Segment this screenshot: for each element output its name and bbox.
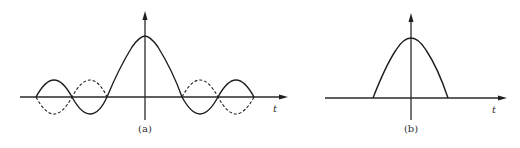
panel-a-t-label: t bbox=[273, 103, 278, 114]
panel-b-t-label: t bbox=[492, 104, 497, 115]
panel-a: t (a) bbox=[20, 11, 288, 134]
panel-b-vertical-axis-arrowhead-icon bbox=[409, 13, 414, 22]
panel-b-t-axis-arrowhead-icon bbox=[498, 96, 507, 101]
panel-a-t-axis-arrowhead-icon bbox=[279, 95, 288, 100]
panel-a-vertical-axis-arrowhead-icon bbox=[143, 11, 148, 20]
panel-a-caption: (a) bbox=[138, 123, 152, 134]
figure-canvas: t (a) t (b) bbox=[0, 0, 520, 148]
panel-b: t (b) bbox=[325, 13, 507, 134]
panel-b-caption: (b) bbox=[404, 123, 418, 134]
